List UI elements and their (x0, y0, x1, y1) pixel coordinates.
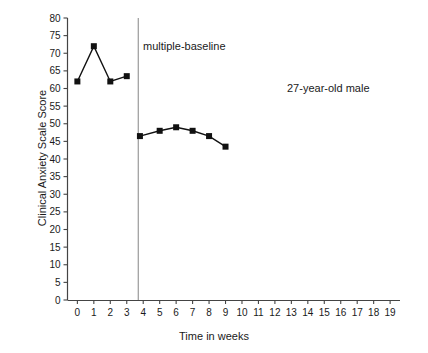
x-tick-label: 18 (368, 307, 380, 318)
y-tick-label: 55 (49, 101, 61, 112)
data-point-marker (124, 73, 130, 79)
series-line-baseline (77, 46, 126, 81)
y-tick-label: 45 (49, 136, 61, 147)
x-tick-label: 14 (302, 307, 314, 318)
x-tick-label: 6 (173, 307, 179, 318)
x-tick-label: 5 (157, 307, 163, 318)
y-tick-label: 70 (49, 48, 61, 59)
data-point-marker (74, 78, 80, 84)
data-point-marker (190, 128, 196, 134)
series-line-treatment (140, 127, 226, 146)
y-tick-label: 15 (49, 242, 61, 253)
axes-group (68, 18, 401, 301)
y-tick-label: 60 (49, 83, 61, 94)
x-tick-label: 11 (253, 307, 264, 318)
x-tick-label: 1 (91, 307, 97, 318)
y-tick-label: 0 (55, 295, 61, 306)
x-tick-label: 4 (140, 307, 146, 318)
x-tick-label: 7 (190, 307, 196, 318)
y-tick-label: 75 (49, 30, 61, 41)
chart-plot: 05101520253035404550556065707580 0123456… (0, 0, 428, 353)
x-tick-label: 16 (335, 307, 347, 318)
y-tick-label: 20 (49, 224, 61, 235)
y-tick-label: 5 (55, 277, 61, 288)
x-tick-label: 13 (286, 307, 298, 318)
x-tick-label: 9 (223, 307, 229, 318)
y-tick-label: 50 (49, 118, 61, 129)
y-tick-label: 35 (49, 171, 61, 182)
y-tick-label: 80 (49, 13, 61, 24)
y-tick-label: 65 (49, 65, 61, 76)
x-tick-label: 3 (124, 307, 130, 318)
x-tick-label: 8 (206, 307, 212, 318)
x-tick-label: 15 (319, 307, 331, 318)
data-point-marker (223, 144, 229, 150)
y-tick-label: 30 (49, 189, 61, 200)
x-axis-title: Time in weeks (0, 330, 428, 342)
x-tick-label: 17 (352, 307, 364, 318)
data-point-marker (173, 124, 179, 130)
data-series-group (74, 43, 228, 149)
phase-annotation-label: multiple-baseline (143, 40, 226, 52)
data-point-marker (157, 128, 163, 134)
data-point-marker (137, 133, 143, 139)
x-tick-label: 0 (75, 307, 81, 318)
subject-annotation-label: 27-year-old male (287, 82, 370, 94)
data-point-marker (107, 78, 113, 84)
y-axis-ticks: 05101520253035404550556065707580 (49, 13, 67, 306)
y-tick-label: 25 (49, 206, 61, 217)
y-tick-label: 40 (49, 154, 61, 165)
data-point-marker (206, 133, 212, 139)
x-tick-label: 10 (236, 307, 248, 318)
x-axis-ticks: 012345678910111213141516171819 (75, 300, 397, 318)
y-axis-title: Clinical Anxiety Scale Score (36, 33, 48, 283)
data-point-marker (91, 43, 97, 49)
x-tick-label: 2 (108, 307, 114, 318)
chart-container: 05101520253035404550556065707580 0123456… (0, 0, 428, 353)
x-tick-label: 12 (269, 307, 281, 318)
x-tick-label: 19 (385, 307, 397, 318)
y-tick-label: 10 (49, 259, 61, 270)
